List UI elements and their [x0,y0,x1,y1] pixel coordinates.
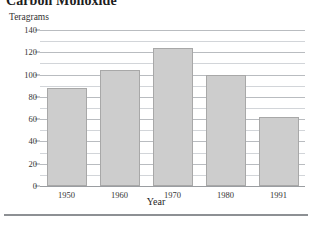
y-axis-unit-label: Teragrams [9,12,49,22]
axis-baseline [40,186,305,187]
bar [100,70,140,186]
y-tick-label: 100 [0,70,37,80]
gridline-major [40,30,305,31]
bar [259,117,299,186]
y-tick-label: 140 [0,25,37,35]
bar [206,75,246,186]
x-axis-title: Year [0,196,312,207]
y-tick-label: 60 [0,114,37,124]
gridline-minor [40,41,305,42]
bar [47,88,87,186]
bottom-divider [4,214,308,216]
y-tick-label: 40 [0,136,37,146]
y-tick-label: 0 [0,181,37,191]
bar [153,48,193,186]
plot-area: 02040608010012014019501960197019801991 [40,30,305,186]
y-tick-label: 120 [0,47,37,57]
y-tick-label: 20 [0,159,37,169]
y-tick-label: 80 [0,92,37,102]
chart-title: Carbon Monoxide [6,0,117,9]
